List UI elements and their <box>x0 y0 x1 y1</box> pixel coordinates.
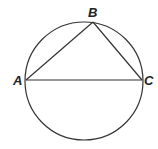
label-c: C <box>144 73 154 88</box>
label-a: A <box>12 73 22 88</box>
segment-ab <box>26 22 93 80</box>
diagram-canvas: A B C <box>0 0 158 149</box>
circle <box>25 22 143 140</box>
label-b: B <box>88 5 97 20</box>
